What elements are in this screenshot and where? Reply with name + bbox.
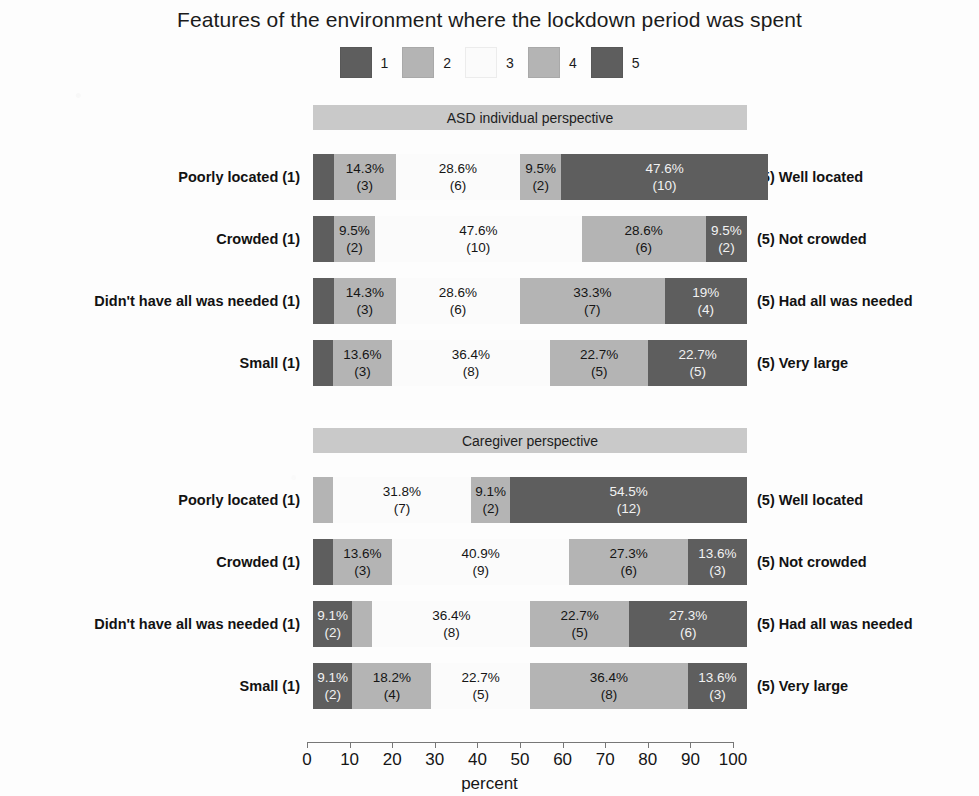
segment-percent-label: 18.2% [373,669,411,686]
legend-label-4: 4 [569,55,577,71]
bar-segment-level-1[interactable] [313,340,333,386]
legend-item-3[interactable]: 3 [465,47,514,78]
segment-count-label: (8) [601,686,618,703]
row-left-label: Small (1) [240,678,300,694]
segment-count-label: (10) [466,239,490,256]
stacked-bar: 9.5%(2)47.6%(10)28.6%(6)9.5%(2) [313,216,747,262]
segment-count-label: (6) [620,562,637,579]
legend-swatch-2 [402,47,434,78]
segment-count-label: (5) [591,363,608,380]
segment-percent-label: 19% [692,284,719,301]
stacked-bar: 13.6%(3)36.4%(8)22.7%(5)22.7%(5) [313,340,747,386]
legend-label-2: 2 [443,55,451,71]
bar-segment-level-3[interactable]: 31.8%(7) [333,477,471,523]
bar-segment-level-2[interactable]: 13.6%(3) [333,539,392,585]
segment-percent-label: 14.3% [346,284,384,301]
bar-segment-level-1[interactable] [313,278,334,324]
bar-segment-level-5[interactable]: 22.7%(5) [648,340,747,386]
chart-row: Small (1)(5) Very large9.1%(2)18.2%(4)22… [0,655,979,717]
bar-segment-level-2[interactable]: 13.6%(3) [333,340,392,386]
segment-percent-label: 28.6% [625,222,663,239]
bar-segment-level-5[interactable]: 54.5%(12) [510,477,747,523]
bar-segment-level-4[interactable]: 33.3%(7) [520,278,665,324]
row-right-label: (5) Had all was needed [757,293,913,309]
stacked-bar: 13.6%(3)40.9%(9)27.3%(6)13.6%(3) [313,539,747,585]
chart-row: Poorly located (1)(5) Well located31.8%(… [0,469,979,531]
bar-segment-level-3[interactable]: 22.7%(5) [431,663,530,709]
bar-segment-level-5[interactable]: 13.6%(3) [688,663,747,709]
bar-segment-level-5[interactable]: 19%(4) [665,278,747,324]
x-tick-label: 20 [383,750,402,770]
row-left-label: Poorly located (1) [178,492,300,508]
segment-count-label: (2) [324,686,341,703]
segment-count-label: (5) [472,686,489,703]
bar-segment-level-2[interactable] [352,601,372,647]
x-tick-mark [307,742,308,748]
segment-count-label: (3) [709,686,726,703]
bar-segment-level-4[interactable]: 22.7%(5) [530,601,629,647]
bar-segment-level-1[interactable] [313,216,334,262]
bar-segment-level-2[interactable]: 14.3%(3) [334,154,396,200]
bar-segment-level-2[interactable] [313,477,333,523]
legend-item-5[interactable]: 5 [591,47,640,78]
segment-percent-label: 22.7% [580,346,618,363]
segment-percent-label: 9.5% [711,222,742,239]
bar-segment-level-4[interactable]: 27.3%(6) [569,539,687,585]
row-right-label: (5) Not crowded [757,231,867,247]
segment-percent-label: 40.9% [462,545,500,562]
bar-segment-level-2[interactable]: 14.3%(3) [334,278,396,324]
x-tick-mark [563,742,564,748]
segment-count-label: (6) [680,624,697,641]
segment-count-label: (8) [463,363,480,380]
segment-percent-label: 22.7% [462,669,500,686]
bar-segment-level-1[interactable]: 9.1%(2) [313,663,352,709]
bar-segment-level-3[interactable]: 28.6%(6) [396,278,520,324]
segment-percent-label: 54.5% [610,483,648,500]
chart-row: Crowded (1)(5) Not crowded9.5%(2)47.6%(1… [0,208,979,270]
segment-percent-label: 36.4% [432,607,470,624]
legend-swatch-1 [340,47,372,78]
bar-segment-level-5[interactable]: 9.5%(2) [706,216,747,262]
bar-segment-level-5[interactable]: 27.3%(6) [629,601,747,647]
segment-count-label: (8) [443,624,460,641]
chart-row: Poorly located (1)(5) Well located14.3%(… [0,146,979,208]
bar-segment-level-4[interactable]: 9.1%(2) [471,477,510,523]
legend-item-1[interactable]: 1 [340,47,389,78]
bar-segment-level-1[interactable] [313,154,334,200]
segment-percent-label: 13.6% [343,545,381,562]
bar-segment-level-3[interactable]: 36.4%(8) [392,340,550,386]
segment-count-label: (2) [346,239,363,256]
legend-item-2[interactable]: 2 [402,47,451,78]
chart-legend: 12345 [0,47,979,78]
x-tick-mark [350,742,351,748]
segment-percent-label: 13.6% [698,669,736,686]
chart-row: Small (1)(5) Very large13.6%(3)36.4%(8)2… [0,332,979,394]
segment-count-label: (2) [718,239,735,256]
bar-segment-level-3[interactable]: 40.9%(9) [392,539,570,585]
segment-count-label: (12) [617,500,641,517]
bar-segment-level-4[interactable]: 36.4%(8) [530,663,688,709]
row-right-label: (5) Very large [757,355,848,371]
stacked-bar: 9.1%(2)36.4%(8)22.7%(5)27.3%(6) [313,601,747,647]
bar-segment-level-3[interactable]: 36.4%(8) [372,601,530,647]
bar-segment-level-4[interactable]: 28.6%(6) [582,216,706,262]
bar-segment-level-5[interactable]: 47.6%(10) [561,154,768,200]
segment-percent-label: 36.4% [590,669,628,686]
bar-segment-level-2[interactable]: 9.5%(2) [334,216,375,262]
segment-percent-label: 9.1% [475,483,506,500]
bar-segment-level-4[interactable]: 22.7%(5) [550,340,649,386]
bar-segment-level-5[interactable]: 13.6%(3) [688,539,747,585]
bar-segment-level-3[interactable]: 28.6%(6) [396,154,520,200]
bar-segment-level-1[interactable] [313,539,333,585]
bar-segment-level-1[interactable]: 9.1%(2) [313,601,352,647]
bar-segment-level-4[interactable]: 9.5%(2) [520,154,561,200]
segment-count-label: (10) [653,177,677,194]
x-tick-label: 0 [302,750,311,770]
bar-segment-level-2[interactable]: 18.2%(4) [352,663,431,709]
legend-item-4[interactable]: 4 [528,47,577,78]
x-tick-label: 10 [340,750,359,770]
legend-swatch-3 [465,47,497,78]
segment-percent-label: 28.6% [439,160,477,177]
stacked-bar: 9.1%(2)18.2%(4)22.7%(5)36.4%(8)13.6%(3) [313,663,747,709]
bar-segment-level-3[interactable]: 47.6%(10) [375,216,582,262]
